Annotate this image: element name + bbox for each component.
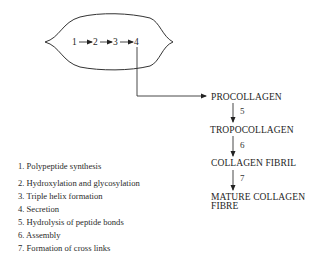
secretion-arrow xyxy=(137,47,206,96)
arrow-5-label: 5 xyxy=(240,106,245,116)
step-2-label: 2 xyxy=(93,37,98,47)
legend-item: 6. Assembly xyxy=(18,229,140,242)
stage-collagen-fibril: COLLAGEN FIBRIL xyxy=(211,158,296,168)
stage-procollagen: PROCOLLAGEN xyxy=(211,92,282,102)
stage-tropocollagen: TROPOCOLLAGEN xyxy=(210,125,294,135)
legend: 1. Polypeptide synthesis 2. Hydroxylatio… xyxy=(18,160,140,255)
step-1-label: 1 xyxy=(72,37,77,47)
stage-mature-collagen-fibre: FIBRE xyxy=(211,201,238,211)
legend-item: 4. Secretion xyxy=(18,203,140,216)
arrow-7-label: 7 xyxy=(240,173,245,183)
step-3-label: 3 xyxy=(113,37,118,47)
legend-item: 7. Formation of cross links xyxy=(18,242,140,255)
legend-item: 2. Hydroxylation and glycosylation xyxy=(18,177,140,190)
legend-item: 5. Hydrolysis of peptide bonds xyxy=(18,216,140,229)
arrow-6-label: 6 xyxy=(240,140,245,150)
step-4-label: 4 xyxy=(134,37,139,47)
legend-item: 3. Triple helix formation xyxy=(18,190,140,203)
legend-item: 1. Polypeptide synthesis xyxy=(18,160,140,173)
